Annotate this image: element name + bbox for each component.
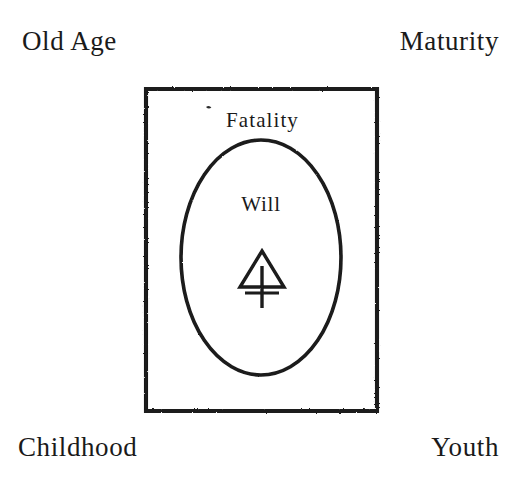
inner-label-fatality: Fatality [145, 110, 380, 131]
alchemical-sulfur-symbol [240, 251, 284, 308]
engraved-diagram-figure: Old Age Maturity Childhood Youth [0, 0, 517, 480]
inner-label-will: Will [181, 194, 341, 215]
inner-ellipse [181, 140, 341, 375]
plate-drawing [0, 0, 517, 480]
ink-speck [206, 106, 211, 109]
